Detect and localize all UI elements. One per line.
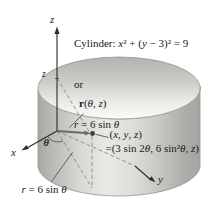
y-axis-label: y — [158, 173, 163, 185]
point-label: (x, y, z) — [110, 128, 142, 140]
equation-line-1: Cylinder: x² + (y − 3)² = 9 — [74, 37, 188, 51]
theta-label: θ — [44, 137, 49, 149]
cylinder-parametrization-figure: Cylinder: x² + (y − 3)² = 9 or r = 6 sin… — [0, 0, 220, 208]
r-vector-label: r(θ, z) — [79, 97, 106, 109]
equation-line-2: or — [74, 78, 188, 92]
x-axis-arrowhead-icon — [22, 145, 29, 150]
z-height-label: z — [42, 68, 46, 80]
x-axis-label: x — [11, 146, 16, 158]
z-axis-label: z — [50, 13, 54, 25]
point-equation-label: =(3 sin 2θ, 6 sin²θ, z) — [106, 142, 199, 154]
r-equation-label: r = 6 sin θ — [22, 183, 67, 195]
z-axis-arrowhead-icon — [55, 27, 60, 35]
